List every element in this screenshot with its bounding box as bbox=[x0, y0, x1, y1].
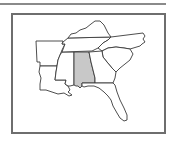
southeast-us-map bbox=[0, 0, 175, 143]
state-kentucky[interactable] bbox=[68, 21, 111, 38]
state-florida[interactable] bbox=[82, 83, 127, 121]
